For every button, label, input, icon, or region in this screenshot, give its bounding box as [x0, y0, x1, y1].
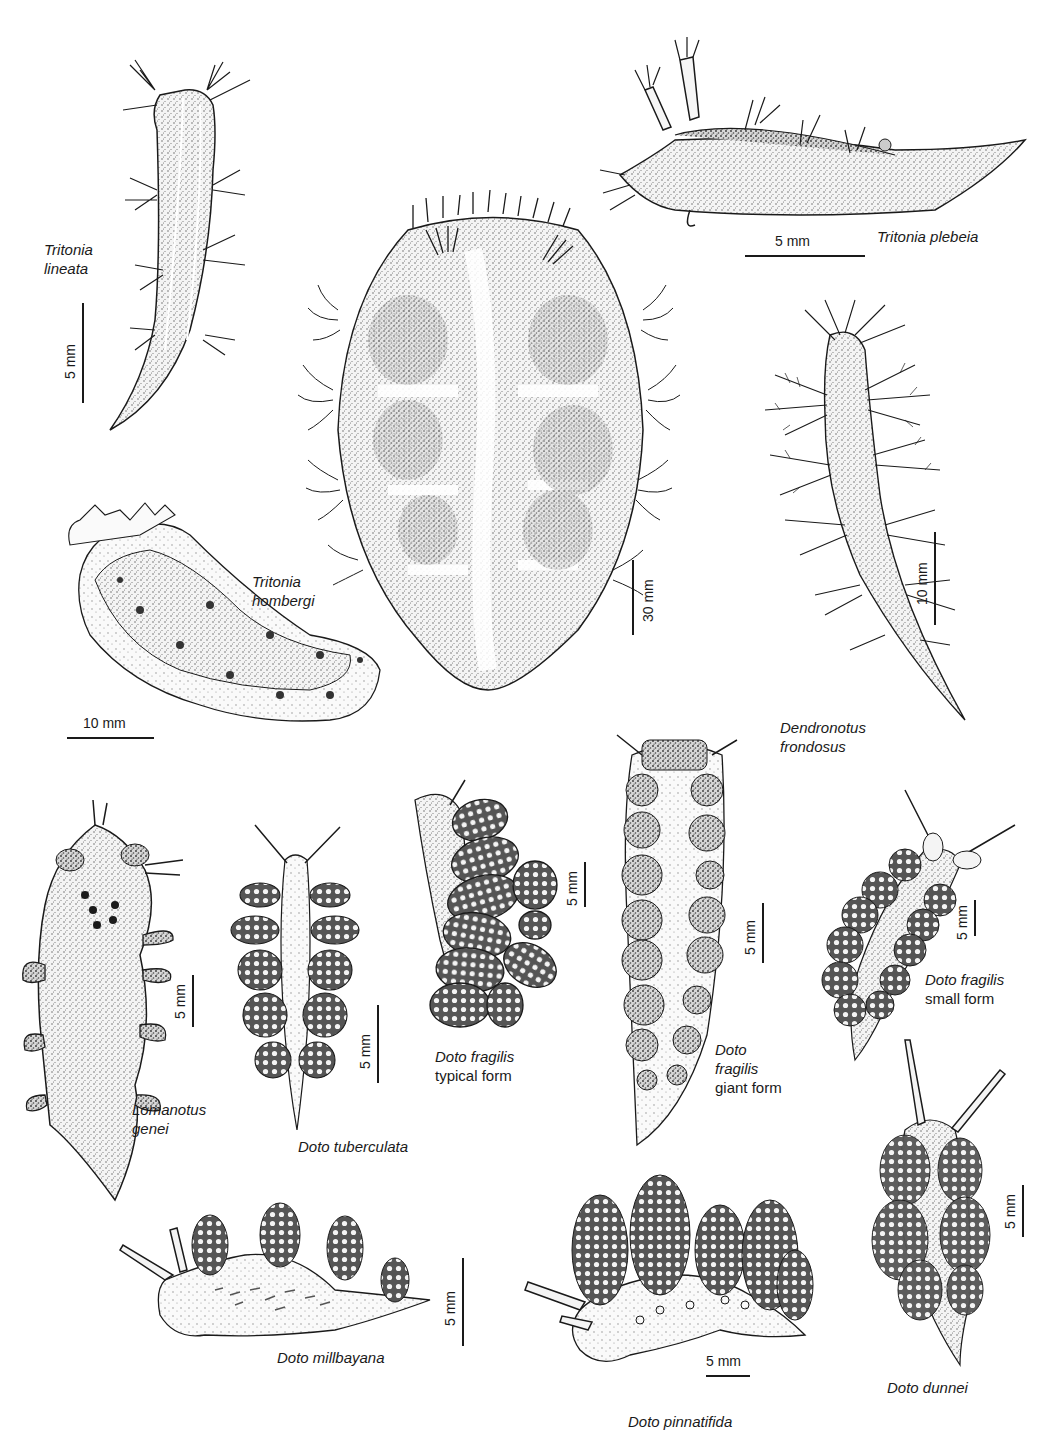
doto-fragilis-giant-label: Doto fragilis giant form	[715, 1040, 782, 1097]
scale-line	[67, 737, 154, 739]
species-name: Dendronotus	[780, 718, 866, 737]
scale-bar-lomanotus-genei: 5 mm	[170, 975, 200, 1030]
scale-line	[377, 1005, 379, 1083]
scale-line	[584, 862, 586, 907]
doto-pinnatifida-drawing	[520, 1170, 820, 1380]
scale-line	[934, 532, 936, 625]
form-descriptor: typical form	[435, 1066, 514, 1085]
scale-bar-tritonia-plebeia: 5 mm	[745, 233, 870, 263]
doto-dunnei-drawing	[860, 1040, 1020, 1370]
species-name: lineata	[44, 259, 93, 278]
tritonia-lineata-drawing	[95, 50, 275, 435]
species-name: fragilis	[715, 1059, 782, 1078]
scale-bar-doto-dunnei: 5 mm	[1000, 1185, 1030, 1240]
scale-text: 5 mm	[442, 1291, 458, 1326]
scale-text: 5 mm	[742, 920, 758, 955]
species-name: hombergi	[252, 591, 315, 610]
tritonia-plebeia-label: Tritonia plebeia	[877, 227, 978, 246]
scale-bar-doto-pinnatifida: 5 mm	[706, 1353, 761, 1383]
species-name: Tritonia	[44, 240, 93, 259]
species-name: Doto	[715, 1040, 782, 1059]
scale-line	[192, 975, 194, 1027]
dendronotus-frondosus-drawing	[745, 295, 975, 725]
scale-line	[1022, 1185, 1024, 1237]
scale-text: 5 mm	[706, 1353, 741, 1369]
doto-pinnatifida-label: Doto pinnatifida	[628, 1412, 732, 1431]
species-name: frondosus	[780, 737, 866, 756]
tritonia-lineata-label: Tritonia lineata	[44, 240, 93, 278]
species-name: Tritonia	[252, 572, 315, 591]
scale-text: 10 mm	[83, 715, 126, 731]
scale-line	[632, 560, 634, 635]
doto-millbayana-drawing	[115, 1210, 435, 1345]
scale-bar-tritonia-hombergi: 10 mm	[67, 715, 162, 745]
species-name: Doto millbayana	[277, 1348, 385, 1367]
scale-bar-tritonia-lineata: 5 mm	[60, 303, 90, 403]
species-name: genei	[132, 1119, 206, 1138]
doto-tuberculata-drawing	[225, 815, 365, 1135]
lomanotus-genei-label: Lomanotus genei	[132, 1100, 206, 1138]
species-name: Doto fragilis	[925, 970, 1004, 989]
scale-bar-dendronotus-frondosus: 10 mm	[912, 532, 942, 627]
scale-line	[462, 1258, 464, 1346]
doto-dunnei-label: Doto dunnei	[887, 1378, 968, 1397]
scale-bar-doto-fragilis-small: 5 mm	[952, 900, 982, 940]
scale-text: 5 mm	[62, 344, 78, 379]
scale-text: 5 mm	[172, 984, 188, 1019]
scale-text: 5 mm	[775, 233, 810, 249]
scale-line	[762, 903, 764, 963]
scale-line	[706, 1375, 750, 1377]
scale-text: 5 mm	[564, 871, 580, 906]
scale-text: 5 mm	[954, 905, 970, 940]
doto-fragilis-small-drawing	[805, 785, 1020, 1065]
scale-line	[745, 255, 865, 257]
species-name: Doto fragilis	[435, 1047, 514, 1066]
scale-bar-central-tritonia: 30 mm	[632, 560, 662, 640]
species-name: Doto dunnei	[887, 1378, 968, 1397]
species-name: Lomanotus	[132, 1100, 206, 1119]
species-name: Doto tuberculata	[298, 1137, 408, 1156]
dendronotus-frondosus-label: Dendronotus frondosus	[780, 718, 866, 756]
doto-fragilis-small-label: Doto fragilis small form	[925, 970, 1004, 1008]
nudibranch-illustration-plate: Tritonia lineata 5 mm T	[0, 0, 1054, 1447]
tritonia-hombergi-label: Tritonia hombergi	[252, 572, 315, 610]
doto-fragilis-typical-label: Doto fragilis typical form	[435, 1047, 514, 1085]
doto-millbayana-label: Doto millbayana	[277, 1348, 385, 1367]
species-name: Doto pinnatifida	[628, 1412, 732, 1431]
species-name: Tritonia plebeia	[877, 227, 978, 246]
scale-bar-doto-millbayana: 5 mm	[440, 1258, 470, 1350]
doto-fragilis-typical-drawing	[405, 780, 560, 1040]
scale-line	[82, 303, 84, 403]
form-descriptor: giant form	[715, 1078, 782, 1097]
doto-tuberculata-label: Doto tuberculata	[298, 1137, 408, 1156]
scale-text: 5 mm	[357, 1034, 373, 1069]
form-descriptor: small form	[925, 989, 1004, 1008]
scale-line	[974, 900, 976, 936]
scale-bar-doto-fragilis-giant: 5 mm	[740, 903, 770, 965]
lomanotus-genei-drawing	[15, 795, 185, 1205]
scale-text: 5 mm	[1002, 1194, 1018, 1229]
scale-text: 30 mm	[640, 579, 656, 622]
scale-bar-doto-tuberculata: 5 mm	[355, 1005, 385, 1085]
scale-text: 10 mm	[914, 562, 930, 605]
scale-bar-doto-fragilis-typical: 5 mm	[562, 862, 592, 910]
